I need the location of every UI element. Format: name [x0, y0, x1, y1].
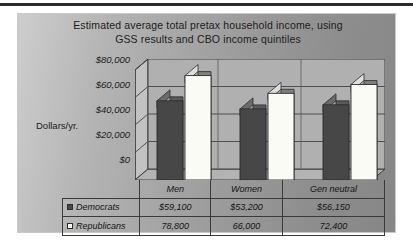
bar-genneutral-republicans [351, 74, 377, 181]
legend-item-democrats[interactable]: Democrats [63, 198, 140, 217]
y-tick-label-40000: $40,000 [96, 104, 130, 115]
table-row: Democrats $59,100 $53,200 $56,150 [63, 198, 385, 217]
table-header-women: Women [211, 180, 282, 198]
y-tick-label-80000: $80,000 [96, 54, 130, 65]
y-tick-label-20000: $20,000 [96, 129, 130, 140]
legend-label-republicans: Republicans [76, 221, 126, 231]
plot-area [135, 59, 385, 180]
cell-republicans-gen-neutral: 72,400 [282, 217, 384, 236]
bar-women-democrats [240, 98, 266, 180]
bar-men-republicans [185, 65, 211, 180]
chart-page: Estimated average total pretax household… [0, 0, 413, 251]
cell-democrats-men: $59,100 [140, 198, 211, 217]
bar-genneutral-democrats [323, 94, 349, 180]
bar-women-republicans [268, 82, 294, 180]
cell-republicans-women: 66,000 [211, 217, 282, 236]
y-tick-label-0: $0 [119, 154, 130, 165]
header-rule [0, 3, 413, 6]
chart-title-line-1: Estimated average total pretax household… [48, 19, 368, 33]
cell-republicans-men: 78,800 [140, 217, 211, 236]
hollow-square-icon [67, 223, 73, 229]
legend-label-democrats: Democrats [76, 202, 120, 212]
chart-panel: Estimated average total pretax household… [18, 14, 395, 232]
plot-3d-frame [135, 59, 385, 180]
chart-title: Estimated average total pretax household… [48, 19, 368, 46]
table-header-gen-neutral: Gen neutral [282, 180, 384, 198]
filled-square-icon [67, 204, 73, 210]
y-axis-tick-labels: $80,000 $60,000 $40,000 $20,000 $0 [58, 59, 130, 180]
legend-item-republicans[interactable]: Republicans [63, 217, 140, 236]
chart-title-line-2: GSS results and CBO income quintiles [48, 33, 368, 47]
table-corner-cell [63, 180, 140, 198]
table-header-row: Men Women Gen neutral [63, 180, 385, 198]
data-table: Men Women Gen neutral Democrats $59,100 … [62, 180, 385, 236]
table-row: Republicans 78,800 66,000 72,400 [63, 217, 385, 236]
cell-democrats-women: $53,200 [211, 198, 282, 217]
cell-democrats-gen-neutral: $56,150 [282, 198, 384, 217]
bar-men-democrats [157, 90, 183, 180]
table-header-men: Men [140, 180, 211, 198]
y-tick-label-60000: $60,000 [96, 79, 130, 90]
